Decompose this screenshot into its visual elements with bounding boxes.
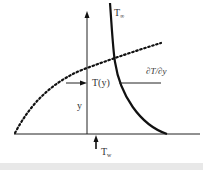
t-wall-sub: w (107, 152, 111, 158)
y-axis-label: y (77, 101, 82, 111)
t-of-y-arrowhead-icon (80, 81, 87, 86)
gradient-label: ∂T/∂y (146, 67, 166, 76)
t-infinity-label: T∞ (114, 8, 124, 19)
boundary-layer-edge-curve (15, 43, 161, 133)
t-wall-arrowhead-icon (94, 135, 99, 142)
t-of-y-label: T(y) (92, 78, 110, 88)
y-axis-arrowhead-icon (85, 11, 90, 18)
t-infinity-sub: ∞ (120, 13, 124, 19)
footer-band (0, 163, 203, 170)
t-wall-label: Tw (101, 147, 111, 158)
